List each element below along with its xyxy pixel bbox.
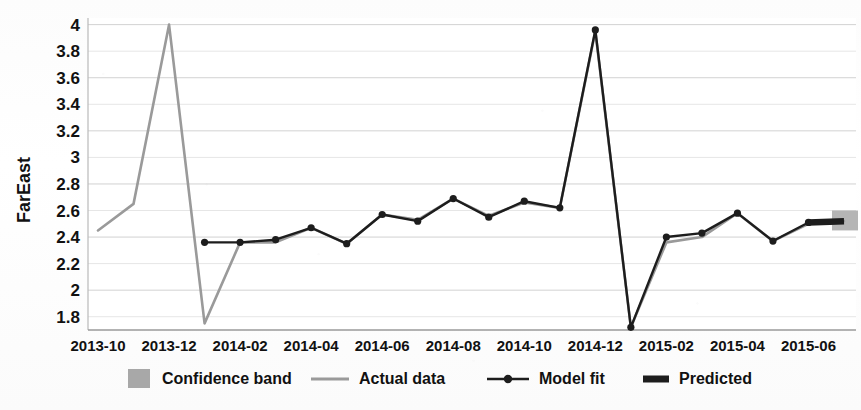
y-axis-tick-label: 2.6 <box>56 202 80 221</box>
y-axis-tick-label: 2.4 <box>56 228 80 247</box>
x-axis-tick-label: 2013-10 <box>70 337 125 354</box>
x-axis-tick-label: 2014-04 <box>284 337 340 354</box>
y-axis-tick-label: 2.8 <box>56 175 80 194</box>
y-axis-tick-label: 3 <box>71 148 80 167</box>
x-axis-tick-label: 2015-06 <box>781 337 836 354</box>
chart-container: 43.83.63.43.232.82.62.42.221.8 2013-1020… <box>0 0 861 410</box>
y-axis-tick-label: 4 <box>71 16 81 35</box>
x-axis-tick-labels: 2013-102013-122014-022014-042014-062014-… <box>70 337 836 354</box>
x-axis-tick-label: 2014-08 <box>426 337 481 354</box>
data-point-marker <box>450 195 457 202</box>
data-point-marker <box>627 324 634 331</box>
x-axis-tick-label: 2014-06 <box>355 337 410 354</box>
data-point-marker <box>414 218 421 225</box>
data-point-marker <box>343 240 350 247</box>
data-point-marker <box>236 239 243 246</box>
far-east-timeseries-chart: 43.83.63.43.232.82.62.42.221.8 2013-1020… <box>0 0 861 410</box>
data-point-marker <box>734 210 741 217</box>
chart-legend: Confidence bandActual dataModel fitPredi… <box>128 369 752 388</box>
data-point-marker <box>556 204 563 211</box>
y-axis-tick-labels: 43.83.63.43.232.82.62.42.221.8 <box>56 16 80 327</box>
y-axis-tick-label: 3.8 <box>56 42 80 61</box>
data-point-marker <box>521 198 528 205</box>
plot-area-background <box>88 18 856 330</box>
legend-item: Predicted <box>643 370 752 387</box>
legend-label: Model fit <box>539 370 605 387</box>
legend-label: Predicted <box>679 370 752 387</box>
y-axis-tick-label: 3.4 <box>56 95 80 114</box>
y-axis-title: FarEast <box>14 157 34 223</box>
x-axis-tick-label: 2013-12 <box>142 337 197 354</box>
data-point-marker <box>698 229 705 236</box>
legend-swatch-confidence-band <box>128 369 150 388</box>
legend-item: Actual data <box>311 370 445 387</box>
legend-label: Actual data <box>359 370 445 387</box>
legend-label: Confidence band <box>162 370 292 387</box>
data-point-marker <box>379 211 386 218</box>
legend-item: Confidence band <box>128 369 292 388</box>
series-line-predicted <box>808 221 844 222</box>
x-axis-tick-label: 2015-04 <box>710 337 766 354</box>
x-axis-tick-label: 2014-12 <box>568 337 623 354</box>
y-axis-tick-label: 2.2 <box>56 255 80 274</box>
y-axis-tick-label: 3.6 <box>56 69 80 88</box>
x-axis-tick-label: 2014-02 <box>213 337 268 354</box>
data-point-marker <box>308 224 315 231</box>
y-axis-tick-label: 2 <box>71 281 80 300</box>
data-point-marker <box>592 26 599 33</box>
legend-item: Model fit <box>487 370 605 387</box>
y-axis-tick-label: 1.8 <box>56 308 80 327</box>
x-axis-tick-label: 2014-10 <box>497 337 552 354</box>
data-point-marker <box>485 214 492 221</box>
data-point-marker <box>663 233 670 240</box>
y-axis-tick-label: 3.2 <box>56 122 80 141</box>
data-point-marker <box>201 239 208 246</box>
x-axis-tick-label: 2015-02 <box>639 337 694 354</box>
data-point-marker <box>769 237 776 244</box>
legend-marker-dot <box>504 375 512 383</box>
data-point-marker <box>272 236 279 243</box>
